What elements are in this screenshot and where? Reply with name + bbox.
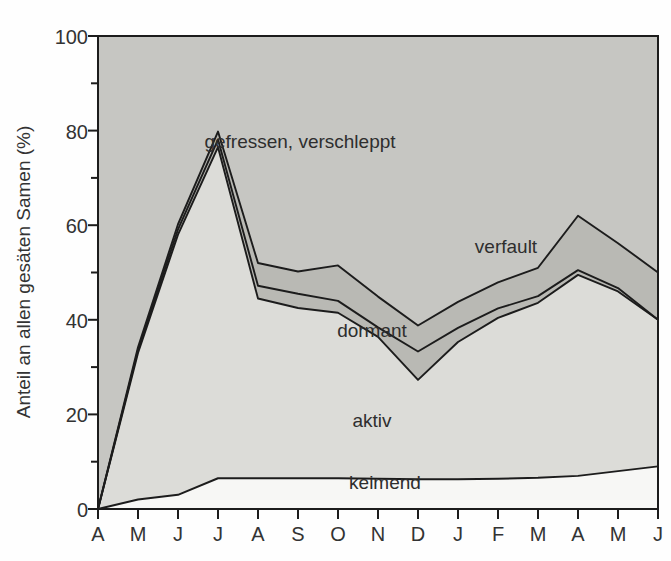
x-tick-label-6: O (330, 523, 346, 545)
chart-canvas: 100 80 60 40 20 0 Anteil an allen gesäte… (0, 0, 671, 561)
y-tick-label-60: 60 (66, 215, 88, 237)
y-tick-label-40: 40 (66, 310, 88, 332)
x-tick-label-12: A (571, 523, 585, 545)
band-label-verfault: verfault (475, 236, 538, 257)
x-tick-label-8: D (411, 523, 425, 545)
x-tick-label-1: M (130, 523, 147, 545)
y-tick-label-20: 20 (66, 404, 88, 426)
x-tick-label-9: J (453, 523, 463, 545)
y-tick-label-100: 100 (55, 26, 88, 48)
x-tick-label-3: J (213, 523, 223, 545)
x-tick-label-11: M (530, 523, 547, 545)
x-tick-label-2: J (173, 523, 183, 545)
band-label-dormant: dormant (337, 320, 407, 341)
y-tick-label-0: 0 (77, 499, 88, 521)
y-axis-title: Anteil an allen gesäten Samen (%) (13, 126, 34, 419)
x-tick-label-4: A (251, 523, 265, 545)
x-tick-label-13: M (610, 523, 627, 545)
seed-fate-stacked-area-chart: 100 80 60 40 20 0 Anteil an allen gesäte… (0, 0, 671, 561)
band-label-aktiv: aktiv (352, 410, 392, 431)
x-tick-label-5: S (291, 523, 304, 545)
band-label-gefressen-verschleppt: gefressen, verschleppt (204, 131, 396, 152)
x-tick-label-14: J (653, 523, 663, 545)
x-axis-ticks (98, 509, 658, 519)
x-tick-label-7: N (371, 523, 385, 545)
y-axis-ticks (88, 36, 98, 509)
band-label-keimend: keimend (349, 472, 421, 493)
x-tick-label-10: F (492, 523, 504, 545)
y-tick-label-80: 80 (66, 121, 88, 143)
x-tick-label-0: A (91, 523, 105, 545)
